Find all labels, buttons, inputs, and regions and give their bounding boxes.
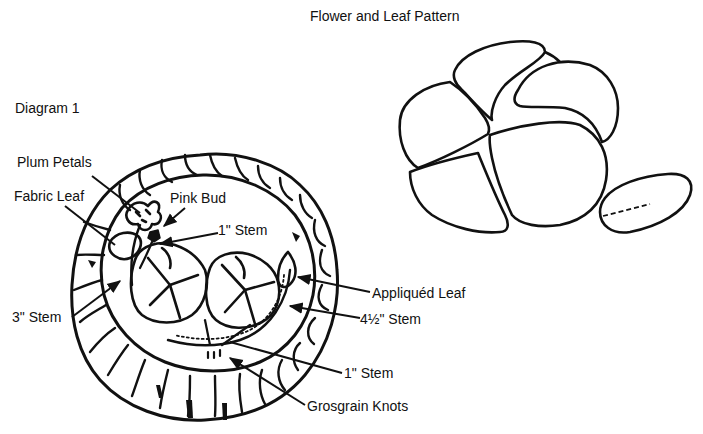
arrow-stem-1-top: [160, 233, 218, 244]
label-stem-1-top: 1" Stem: [218, 222, 267, 238]
pattern-petal-lower-right: [490, 122, 607, 226]
pattern-petal-upper-right: [515, 62, 619, 142]
label-grosgrain-knots: Grosgrain Knots: [307, 398, 408, 414]
flower-left: [131, 243, 207, 322]
label-plum-petals: Plum Petals: [17, 154, 92, 170]
pattern-title: Flower and Leaf Pattern: [310, 8, 459, 24]
appliqued-leaf: [278, 252, 295, 287]
label-stem-4-5: 4½" Stem: [360, 311, 421, 327]
pattern-drawing: [400, 41, 692, 232]
arrow-plum-petals: [92, 176, 140, 213]
pink-bud: [148, 230, 160, 242]
pattern-leaf-vein: [603, 204, 650, 216]
label-pink-bud: Pink Bud: [170, 190, 226, 206]
arrow-fabric-leaf: [65, 206, 115, 245]
label-fabric-leaf: Fabric Leaf: [14, 188, 84, 204]
label-stem-1-bottom: 1" Stem: [344, 365, 393, 381]
arrow-pink-bud: [164, 208, 185, 226]
flower-right: [206, 253, 279, 328]
pattern-petal-left: [400, 82, 490, 168]
diagram-title: Diagram 1: [15, 100, 80, 116]
label-appliqued-leaf: Appliquéd Leaf: [372, 285, 465, 301]
pattern-leaf: [600, 174, 691, 233]
arrow-appliqued-leaf: [298, 277, 370, 292]
label-stem-3: 3" Stem: [12, 309, 61, 325]
